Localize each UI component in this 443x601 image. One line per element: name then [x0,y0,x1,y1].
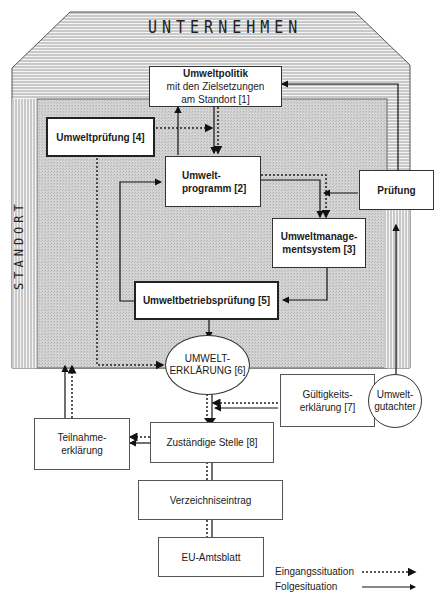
node-umweltpolitik-line1: Umweltpolitik [183,67,248,80]
node-umweltpruefung: Umweltprüfung [4] [46,117,155,157]
node-teilnahme-line2: erklärung [61,444,103,457]
node-umweltbetriebspruefung: Umweltbetriebsprüfung [5] [134,281,279,320]
gutachter-strip [384,185,410,368]
node-gueltigkeit-line1: Gültigkeits- [302,388,352,401]
legend-folgesituation: Folgesituation [275,581,337,592]
node-teilnahme-line1: Teilnahme- [58,431,107,444]
node-zustaendige-stelle: Zuständige Stelle [8] [150,422,274,463]
node-ums-line1: Umweltmanage- [281,230,358,243]
node-verzeichniseintrag: Verzeichniseintrag [138,480,283,520]
node-gueltigkeitserklaerung: Gültigkeits- erklärung [7] [280,374,375,427]
legend-eingangssituation: Eingangssituation [275,566,354,577]
node-umweltprogramm-line2: programm [2] [182,182,246,195]
node-umweltprogramm-line1: Umwelt- [182,169,221,182]
node-umweltgutachter: Umwelt- gutachter [368,374,422,428]
node-umwelterklaerung-line1: UMWELT- [185,353,230,366]
node-umwelterklaerung-line2: ERKLÄRUNG [6] [169,365,245,378]
node-gutachter-line1: Umwelt- [377,389,414,402]
standort-label: STANDORT [12,200,26,290]
node-umwelterklaerung: UMWELT- ERKLÄRUNG [6] [165,335,250,395]
node-umweltprogramm: Umwelt- programm [2] [165,156,261,207]
node-ums-line2: mentsystem [3] [282,243,355,256]
node-umweltpolitik: Umweltpolitik mit den Zielsetzungen am S… [149,66,282,107]
node-eu-amtsblatt: EU-Amtsblatt [158,537,264,577]
node-gutachter-line2: gutachter [374,401,416,414]
node-pruefung: Prüfung [359,170,434,210]
unternehmen-label: UNTERNEHMEN [148,16,302,38]
node-teilnahmeerklaerung: Teilnahme- erklärung [34,418,130,470]
node-umweltmanagementsystem: Umweltmanage- mentsystem [3] [272,218,366,268]
node-umweltpolitik-line3: am Standort [1] [181,93,249,106]
node-umweltpolitik-line2: mit den Zielsetzungen [167,80,265,93]
node-gueltigkeit-line2: erklärung [7] [300,401,356,414]
